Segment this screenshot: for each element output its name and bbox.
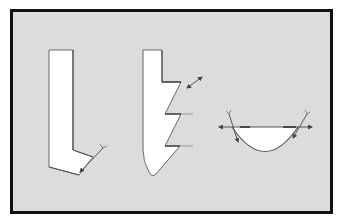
profile-3-right-indicator bbox=[293, 114, 307, 138]
tool-2-double-arrow bbox=[187, 77, 202, 88]
tool-2-shape bbox=[143, 50, 202, 176]
diagram-canvas bbox=[0, 0, 343, 223]
tool-1-shape bbox=[49, 50, 107, 175]
caption-fragment bbox=[10, 216, 210, 223]
profile-3-shape bbox=[219, 110, 312, 152]
